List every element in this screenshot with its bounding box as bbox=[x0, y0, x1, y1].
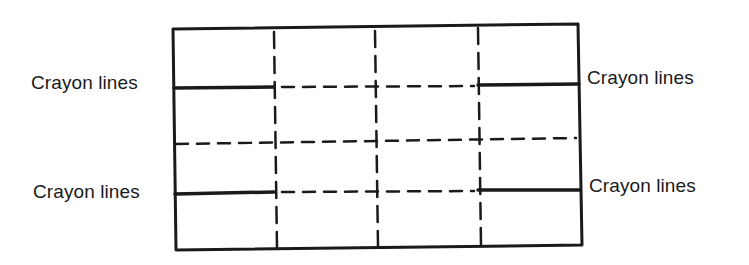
vertical-dashed-line-2 bbox=[375, 31, 378, 247]
vertical-dashed-line-1 bbox=[274, 32, 277, 248]
dashed-line-upper-middle bbox=[282, 86, 474, 87]
crayon-line-upper-left bbox=[174, 87, 274, 88]
label-crayon-lines-lower-left: Crayon lines bbox=[33, 182, 140, 201]
vertical-dashed-line-3 bbox=[478, 28, 481, 246]
label-crayon-lines-upper-left: Crayon lines bbox=[31, 73, 138, 92]
grid-drawing bbox=[0, 0, 749, 265]
panel-diagram: Crayon lines Crayon lines Crayon lines C… bbox=[0, 0, 749, 265]
dashed-line-lower-middle bbox=[282, 191, 474, 192]
crayon-line-lower-left bbox=[175, 192, 274, 194]
label-crayon-lines-upper-right: Crayon lines bbox=[587, 68, 694, 87]
crayon-line-upper-right bbox=[478, 84, 579, 85]
label-crayon-lines-lower-right: Crayon lines bbox=[589, 176, 696, 195]
